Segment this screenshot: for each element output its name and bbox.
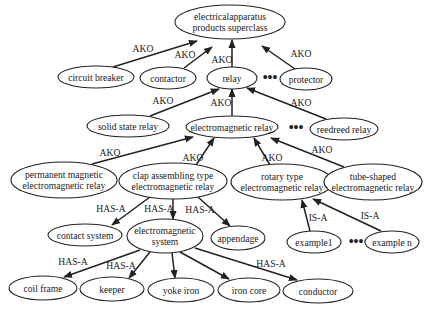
node-electromagnetic-system: electromagneticsystem xyxy=(127,219,203,253)
node-label: iron core xyxy=(232,285,266,296)
edge-label-ako: AKO xyxy=(211,97,232,108)
edge-label-is-a: IS-A xyxy=(361,210,380,221)
node-protector: protector xyxy=(280,68,332,90)
node-example1: example1 xyxy=(287,231,341,253)
node-label: example n xyxy=(372,237,412,248)
edge-label-has-a: HAS-A xyxy=(106,260,135,271)
ako-hierarchy-diagram: electricalapparatusproducts superclassci… xyxy=(0,0,432,318)
edge-label-has-a: HAS-A xyxy=(185,204,214,215)
node-iron-core: iron core xyxy=(218,278,280,302)
node-conductor: conductor xyxy=(283,279,353,303)
node-label: products superclass xyxy=(193,22,268,33)
edge-label-ako: AKO xyxy=(291,48,312,59)
node-label: permanent magnetic xyxy=(25,169,103,180)
ellipsis-marker: ••• xyxy=(263,70,278,85)
node-label: protector xyxy=(289,74,324,85)
node-label: relay xyxy=(222,73,241,84)
node-label: rotary type xyxy=(261,171,303,182)
node-electromagnetic-relay: electromagnetic relay xyxy=(186,116,278,138)
node-label: reedreed relay xyxy=(317,124,372,135)
node-label: electricalapparatus xyxy=(194,11,266,22)
edge-electromagnetic-system-to-yoke-iron xyxy=(172,253,175,278)
node-permanent-magnetic: permanent magneticelectromagnetic relay xyxy=(11,162,117,198)
node-label: conductor xyxy=(299,286,338,297)
edge-label-ako: AKO xyxy=(133,43,154,54)
node-label: contact system xyxy=(57,230,114,241)
node-label: clap assembling type xyxy=(133,170,213,181)
node-contact-system: contact system xyxy=(48,224,122,246)
node-clap-assembling: clap assembling typeelectromagnetic rela… xyxy=(119,163,227,199)
node-superclass: electricalapparatusproducts superclass xyxy=(175,5,285,39)
edge-label-has-a: HAS-A xyxy=(96,203,125,214)
node-label: keeper xyxy=(99,284,125,295)
node-coil-frame: coil frame xyxy=(9,276,77,300)
edge-label-has-a: HAS-A xyxy=(58,256,87,267)
node-label: electromagnetic relay xyxy=(23,180,106,191)
node-keeper: keeper xyxy=(80,277,144,301)
node-label: yoke iron xyxy=(163,285,200,296)
edge-label-ako: AKO xyxy=(291,97,312,108)
ellipsis-marker: ••• xyxy=(349,234,364,249)
edge-label-ako: AKO xyxy=(312,144,333,155)
node-label: electromagnetic relay xyxy=(132,181,215,192)
node-solid-state-relay: solid state relay xyxy=(87,115,169,137)
node-label: tube-shaped xyxy=(350,171,397,182)
node-yoke-iron: yoke iron xyxy=(148,278,214,302)
edge-label-is-a: IS-A xyxy=(309,212,328,223)
edge-label-ako: AKO xyxy=(100,147,121,158)
node-rotary-type: rotary typeelectromagnetic relay xyxy=(231,164,333,200)
edge-label-has-a: HAS-A xyxy=(256,258,285,269)
node-label: electromagnetic relay xyxy=(191,122,274,133)
node-label: coil frame xyxy=(23,283,62,294)
node-label: electromagnetic relay xyxy=(241,182,324,193)
node-example-n: example n xyxy=(365,231,419,253)
edge-label-ako: AKO xyxy=(153,95,174,106)
edge-label-ako: AKO xyxy=(175,49,196,60)
node-label: electromagnetic xyxy=(134,225,195,236)
edge-label-ako: AKO xyxy=(262,152,283,163)
node-label: solid state relay xyxy=(98,121,158,132)
node-relay: relay xyxy=(207,67,257,89)
node-label: example1 xyxy=(295,237,332,248)
edge-label-ako: AKO xyxy=(183,152,204,163)
node-circuit-breaker: circuit breaker xyxy=(58,66,134,88)
edge-reedreed-relay-to-relay xyxy=(247,88,326,119)
ellipsis-marker: ••• xyxy=(289,120,304,135)
node-contactor: contactor xyxy=(140,67,196,89)
node-label: electromagnetic relay xyxy=(332,182,415,193)
node-appendage: appendage xyxy=(211,226,265,250)
edge-label-ako: AKO xyxy=(212,54,233,65)
node-label: contactor xyxy=(150,73,186,84)
node-label: circuit breaker xyxy=(68,72,124,83)
node-tube-shaped: tube-shapedelectromagnetic relay xyxy=(324,164,422,200)
node-label: system xyxy=(152,236,179,247)
node-reedreed-relay: reedreed relay xyxy=(310,118,378,140)
node-label: appendage xyxy=(217,233,258,244)
edge-label-has-a: HAS-A xyxy=(144,203,173,214)
